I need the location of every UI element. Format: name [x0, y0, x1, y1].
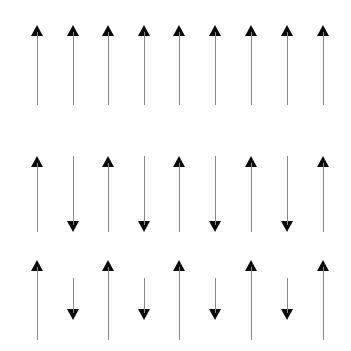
- arrow-up: [102, 25, 115, 105]
- arrow-up: [102, 260, 115, 340]
- arrow-down: [67, 278, 80, 320]
- row-3-alternating-unequal: [0, 260, 351, 344]
- arrow-shaft: [144, 156, 145, 225]
- arrow-shaft: [73, 278, 74, 313]
- arrow-up: [209, 25, 222, 105]
- arrow-shaft: [287, 32, 288, 105]
- arrow-up: [317, 156, 330, 232]
- arrow-shaft: [73, 32, 74, 105]
- arrow-shaft: [251, 267, 252, 340]
- arrow-shaft: [215, 278, 216, 313]
- arrow-shaft: [215, 32, 216, 105]
- arrow-shaft: [37, 32, 38, 105]
- arrow-down: [209, 278, 222, 320]
- arrow-up: [173, 25, 186, 105]
- arrow-up: [281, 25, 294, 105]
- arrow-up: [138, 25, 151, 105]
- arrow-down: [138, 156, 151, 232]
- arrow-shaft: [144, 278, 145, 313]
- arrow-shaft: [37, 163, 38, 232]
- arrow-shaft: [251, 163, 252, 232]
- arrow-up: [173, 156, 186, 232]
- arrow-up: [317, 260, 330, 340]
- arrow-up: [317, 25, 330, 105]
- arrow-up: [102, 156, 115, 232]
- arrow-up: [245, 25, 258, 105]
- arrow-up: [31, 260, 44, 340]
- spin-arrow-diagram: [0, 0, 351, 351]
- arrow-shaft: [215, 156, 216, 225]
- row-2-alternating-equal: [0, 156, 351, 236]
- arrow-shaft: [108, 163, 109, 232]
- arrow-shaft: [108, 32, 109, 105]
- arrow-up: [245, 260, 258, 340]
- arrow-down: [281, 156, 294, 232]
- arrow-shaft: [323, 163, 324, 232]
- arrow-down: [281, 278, 294, 320]
- arrow-shaft: [37, 267, 38, 340]
- arrow-up: [31, 25, 44, 105]
- arrow-down: [138, 278, 151, 320]
- arrow-up: [67, 25, 80, 105]
- arrow-shaft: [73, 156, 74, 225]
- arrow-shaft: [179, 32, 180, 105]
- arrow-down: [209, 156, 222, 232]
- arrow-shaft: [144, 32, 145, 105]
- arrow-shaft: [108, 267, 109, 340]
- arrow-shaft: [323, 32, 324, 105]
- row-1-all-up: [0, 25, 351, 107]
- arrow-shaft: [287, 278, 288, 313]
- arrow-shaft: [179, 163, 180, 232]
- arrow-shaft: [251, 32, 252, 105]
- arrow-up: [173, 260, 186, 340]
- arrow-shaft: [323, 267, 324, 340]
- arrow-down: [67, 156, 80, 232]
- arrow-up: [31, 156, 44, 232]
- arrow-up: [245, 156, 258, 232]
- arrow-shaft: [179, 267, 180, 340]
- arrow-shaft: [287, 156, 288, 225]
